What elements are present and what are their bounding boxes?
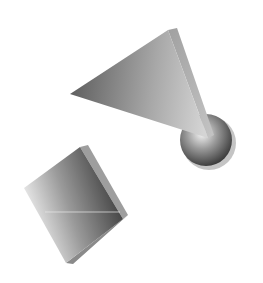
triangle-shape <box>70 28 214 138</box>
square-shape <box>24 145 128 264</box>
shapes-canvas <box>0 0 263 283</box>
